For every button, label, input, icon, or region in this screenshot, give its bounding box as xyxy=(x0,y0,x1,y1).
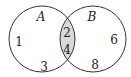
element-b-only: 8 xyxy=(91,58,99,72)
element-a-only: 3 xyxy=(40,60,48,74)
set-a-label: A xyxy=(36,10,46,24)
element-intersection: 4 xyxy=(63,43,71,57)
venn-diagram: A B 1 3 2 4 6 8 xyxy=(0,0,131,77)
element-a-only: 1 xyxy=(15,35,23,49)
set-b-label: B xyxy=(87,10,97,24)
element-b-only: 6 xyxy=(110,33,118,47)
element-intersection: 2 xyxy=(63,26,71,40)
